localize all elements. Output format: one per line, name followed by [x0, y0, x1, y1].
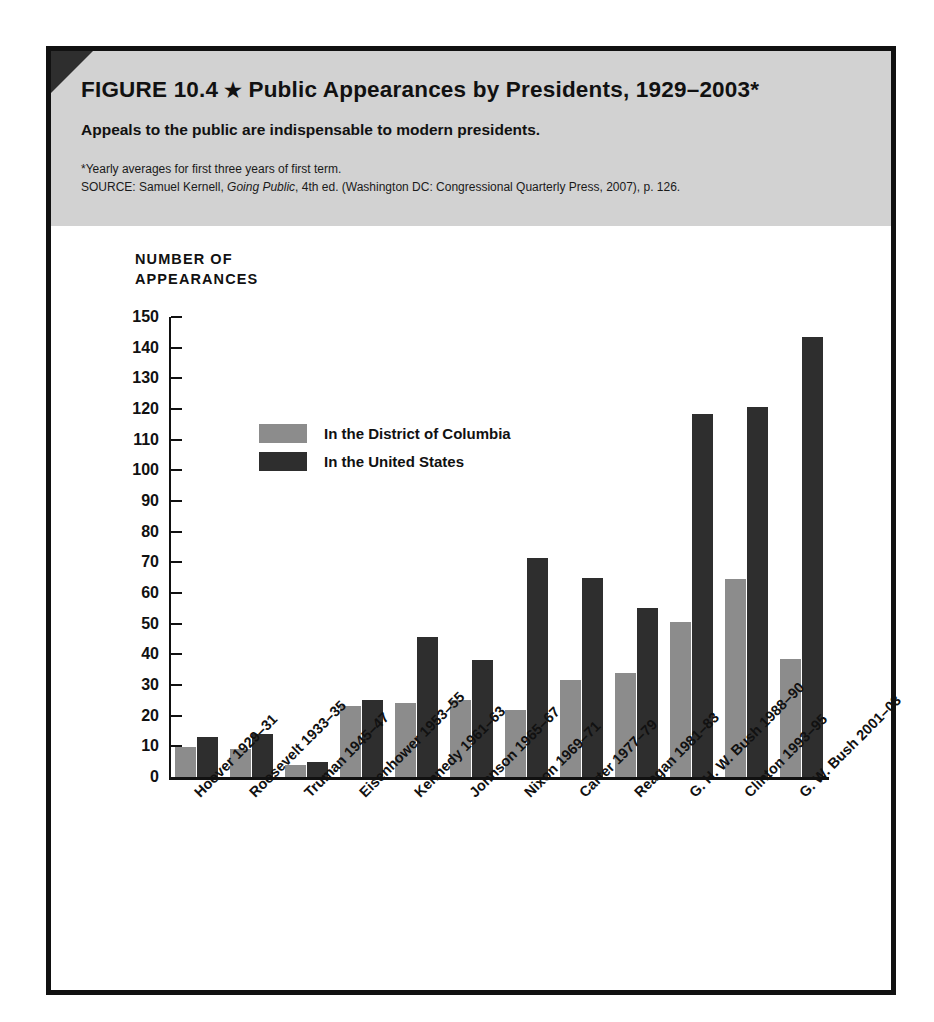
bar-group	[560, 226, 603, 777]
y-axis-label: 60	[59, 584, 159, 602]
bar-group	[395, 226, 438, 777]
star-icon: ★	[218, 79, 248, 101]
legend-label: In the District of Columbia	[324, 425, 511, 442]
bar	[637, 608, 658, 777]
y-axis-label: 80	[59, 523, 159, 541]
bar	[175, 747, 196, 777]
source-title-italic: Going Public	[227, 180, 295, 194]
bar-group	[175, 226, 218, 777]
chart-legend: In the District of ColumbiaIn the United…	[259, 424, 511, 480]
y-axis-label: 140	[59, 339, 159, 357]
bar	[417, 637, 438, 777]
bar-group	[670, 226, 713, 777]
figure-number: FIGURE 10.4	[81, 77, 218, 102]
legend-swatch-icon	[259, 452, 307, 471]
bar-group	[725, 226, 768, 777]
bar-group	[285, 226, 328, 777]
figure-header-band: FIGURE 10.4★Public Appearances by Presid…	[51, 51, 891, 226]
y-axis-label: 10	[59, 737, 159, 755]
y-axis-label: 90	[59, 492, 159, 510]
bar-group	[340, 226, 383, 777]
y-axis-label: 50	[59, 615, 159, 633]
figure-title-text: Public Appearances by Presidents, 1929–2…	[248, 77, 759, 102]
source-suffix: , 4th ed. (Washington DC: Congressional …	[295, 180, 680, 194]
figure-frame: FIGURE 10.4★Public Appearances by Presid…	[46, 46, 896, 995]
legend-item: In the United States	[259, 452, 511, 471]
figure-title: FIGURE 10.4★Public Appearances by Presid…	[81, 77, 861, 103]
bar-group	[230, 226, 273, 777]
y-axis-label: 110	[59, 431, 159, 449]
y-axis-line	[169, 317, 171, 779]
bar-chart: 0102030405060708090100110120130140150 Ho…	[51, 226, 891, 990]
legend-swatch-icon	[259, 424, 307, 443]
y-axis-label: 40	[59, 645, 159, 663]
source-prefix: SOURCE: Samuel Kernell,	[81, 180, 227, 194]
bar-group	[615, 226, 658, 777]
legend-label: In the United States	[324, 453, 464, 470]
figure-subtitle: Appeals to the public are indispensable …	[81, 121, 861, 139]
y-axis-label: 70	[59, 553, 159, 571]
bar-group	[505, 226, 548, 777]
legend-item: In the District of Columbia	[259, 424, 511, 443]
figure-source: SOURCE: Samuel Kernell, Going Public, 4t…	[81, 179, 861, 196]
y-axis-label: 130	[59, 369, 159, 387]
y-axis-label: 30	[59, 676, 159, 694]
y-axis-label: 20	[59, 707, 159, 725]
y-axis-label: 120	[59, 400, 159, 418]
y-axis-label: 100	[59, 461, 159, 479]
y-axis-label: 0	[59, 768, 159, 786]
corner-fold-decoration	[51, 51, 93, 93]
y-axis-label: 150	[59, 308, 159, 326]
plot-region: NUMBER OF APPEARANCES 010203040506070809…	[51, 226, 891, 990]
figure-footnote: *Yearly averages for first three years o…	[81, 161, 861, 178]
